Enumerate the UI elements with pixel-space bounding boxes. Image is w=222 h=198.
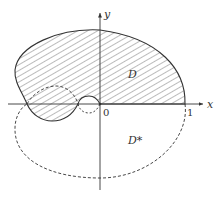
origin-point [99,103,102,106]
region-d-label: D [127,68,137,81]
tick-label-1: 1 [187,107,193,118]
x-axis-label: x [207,98,214,111]
region-d-star-small-arc [78,104,100,113]
region-d-star-label: D* [127,134,143,147]
y-axis-label: y [103,8,111,21]
region-diagram: x y 0 1 D D* [0,0,222,198]
origin-label: 0 [103,107,109,118]
